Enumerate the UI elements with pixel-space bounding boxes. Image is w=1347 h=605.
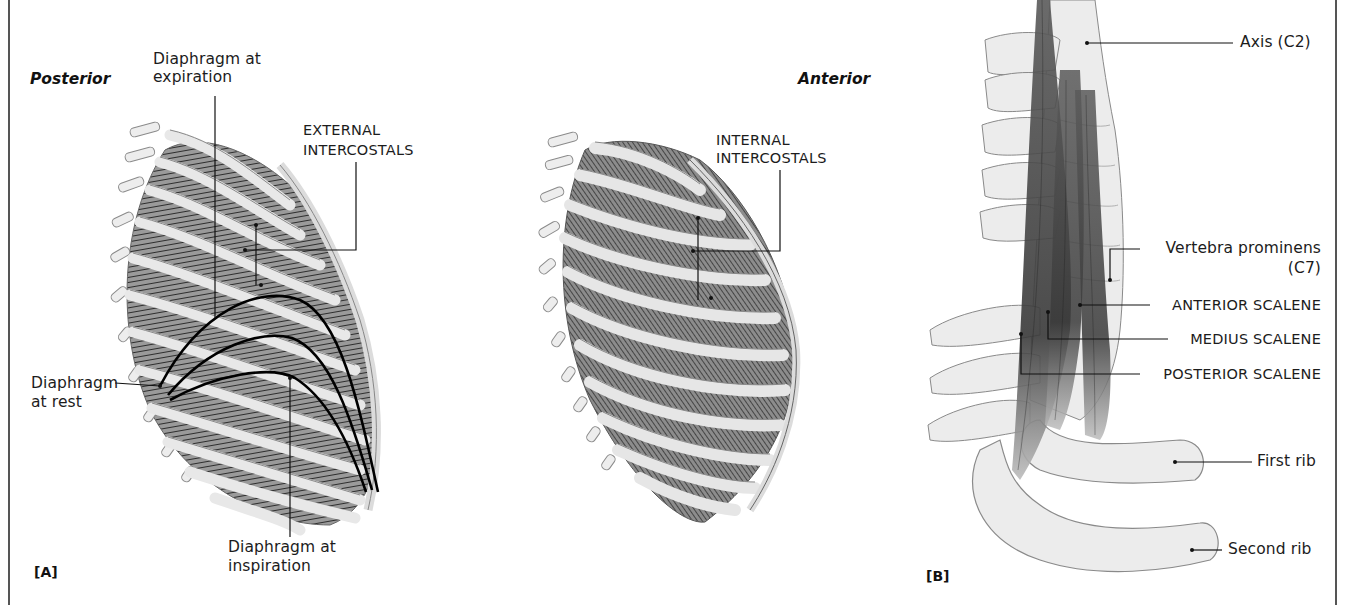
label-diaphragm-inspiration-line1: Diaphragm at xyxy=(228,538,336,557)
label-first-rib: First rib xyxy=(1257,452,1316,471)
label-external-intercostals-line1: EXTERNAL xyxy=(303,121,380,140)
label-medius-scalene: MEDIUS SCALENE xyxy=(1170,330,1321,349)
label-posterior-scalene: POSTERIOR SCALENE xyxy=(1142,365,1321,384)
anatomy-illustration xyxy=(0,0,1347,605)
label-axis-c2: Axis (C2) xyxy=(1240,33,1311,52)
label-external-intercostals-line2: INTERCOSTALS xyxy=(303,141,414,160)
label-diaphragm-expiration-line1: Diaphragm at xyxy=(153,50,261,69)
cervical-spine-scalenes xyxy=(928,0,1218,572)
label-vertebra-prominens-line2: (C7) xyxy=(1147,259,1321,278)
label-diaphragm-inspiration-line2: inspiration xyxy=(228,557,311,576)
label-vertebra-prominens-line1: Vertebra prominens xyxy=(1147,239,1321,258)
panel-tag-b: [B] xyxy=(926,568,949,584)
posterior-rib-cage xyxy=(109,121,379,530)
label-internal-intercostals-line1: INTERNAL xyxy=(716,131,790,150)
view-heading-anterior: Anterior xyxy=(798,70,870,88)
label-diaphragm-expiration-line2: expiration xyxy=(153,68,232,87)
label-diaphragm-rest-line1: Diaphragm xyxy=(31,374,118,393)
view-heading-posterior: Posterior xyxy=(30,70,110,88)
label-second-rib: Second rib xyxy=(1228,540,1312,559)
label-diaphragm-rest-line2: at rest xyxy=(31,393,82,412)
panel-tag-a: [A] xyxy=(34,564,58,580)
label-anterior-scalene: ANTERIOR SCALENE xyxy=(1152,296,1321,315)
label-internal-intercostals-line2: INTERCOSTALS xyxy=(716,149,827,168)
anterior-rib-cage xyxy=(537,131,796,522)
